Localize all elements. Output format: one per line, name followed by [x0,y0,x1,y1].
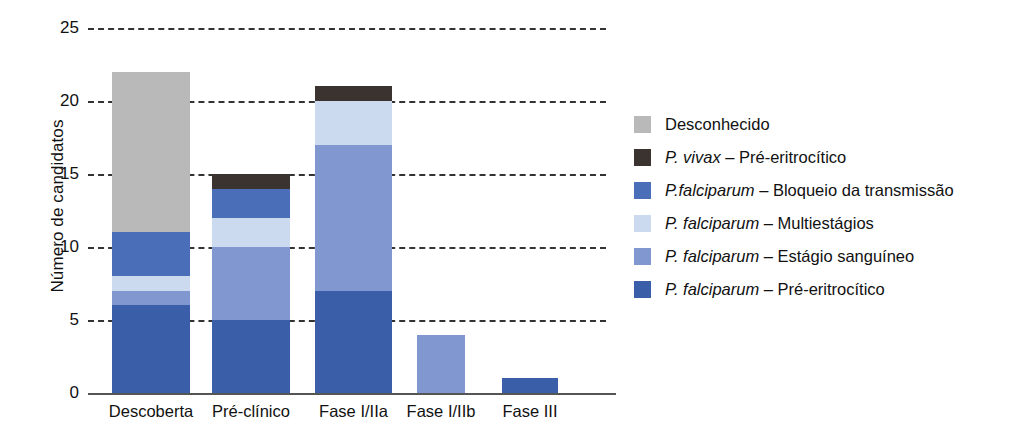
plot-area: 2520151050 DescobertaPré-clínicoFase I/I… [88,28,616,393]
legend-item-label: P.falciparum – Bloqueio da transmissão [665,181,954,200]
bar-segment [315,291,392,393]
x-tick-label-pr-cl-nico: Pré-clínico [212,402,290,421]
bar-segment [212,320,290,393]
legend-item-label: P. falciparum – Estágio sanguíneo [665,247,914,266]
y-tick-label-25: 25 [60,18,79,38]
legend-swatch-bloqueio-da-transmissao [634,182,651,199]
bar-segment [417,335,465,393]
legend-item[interactable]: P.falciparum – Bloqueio da transmissão [634,174,954,207]
legend-item[interactable]: P. falciparum – Estágio sanguíneo [634,240,954,273]
bar-segment [112,305,190,393]
legend-item-label: Desconhecido [665,115,770,134]
bar-descoberta[interactable] [112,72,190,393]
bar-pr-cl-nico[interactable] [212,174,290,393]
legend-item[interactable]: P. falciparum – Pré-eritrocítico [634,273,954,306]
bar-segment [315,101,392,145]
bar-fase-i-iib[interactable] [417,335,465,393]
legend-swatch-p-falciparum-pre-eritrocitico [634,281,651,298]
y-tick-label-15: 15 [60,164,79,184]
x-tick-label-fase-iii: Fase III [502,402,557,421]
bar-fase-i-iia[interactable] [315,86,392,393]
legend-item[interactable]: P. vivax – Pré-eritrocítico [634,141,954,174]
x-tick-label-fase-i-iia: Fase I/IIa [319,402,388,421]
bar-segment [112,291,190,306]
x-tick-label-descoberta: Descoberta [109,402,193,421]
chart-legend: DesconhecidoP. vivax – Pré-eritrocíticoP… [634,108,954,306]
gridline-25 [88,28,606,30]
bar-segment [315,145,392,291]
bar-segment [212,247,290,320]
bar-fase-iii[interactable] [502,378,558,393]
legend-swatch-multiestagios [634,215,651,232]
bar-segment [212,189,290,218]
legend-item-label: P. vivax – Pré-eritrocítico [665,148,846,167]
x-axis-line [88,393,616,395]
legend-item[interactable]: P. falciparum – Multiestágios [634,207,954,240]
x-tick-label-fase-i-iib: Fase I/IIb [407,402,476,421]
bar-segment [315,86,392,101]
legend-swatch-estagio-sanguineo [634,248,651,265]
legend-swatch-p-vivax-pre-eritrocitico [634,149,651,166]
bar-segment [112,72,190,233]
legend-item-label: P. falciparum – Multiestágios [665,214,874,233]
y-tick-label-20: 20 [60,91,79,111]
y-axis-title: Número de candidatos [48,76,68,336]
legend-item[interactable]: Desconhecido [634,108,954,141]
bar-segment [212,174,290,189]
stacked-bar-chart-figure: Número de candidatos 2520151050 Descober… [0,0,1012,443]
bar-segment [112,276,190,291]
y-tick-label-0: 0 [70,383,79,403]
y-tick-label-5: 5 [70,310,79,330]
bar-segment [212,218,290,247]
legend-swatch-desconhecido [634,116,651,133]
y-tick-label-10: 10 [60,237,79,257]
bar-segment [112,232,190,276]
bar-segment [502,378,558,393]
legend-item-label: P. falciparum – Pré-eritrocítico [665,280,885,299]
